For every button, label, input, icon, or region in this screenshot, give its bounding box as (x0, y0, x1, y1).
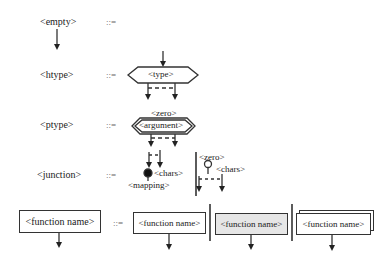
op-junction: ::= (106, 171, 116, 180)
junction-zero: <zero> (199, 153, 225, 162)
lhs-empty: <empty> (40, 17, 76, 27)
op-htype: ::= (106, 71, 116, 80)
function-box-stacked-front: <function name> (296, 213, 371, 235)
junction-chars-2: <chars> (216, 165, 245, 174)
junction-mapping: <mapping> (128, 181, 170, 190)
ptype-zero: <zero> (151, 109, 177, 118)
op-function-name: ::= (113, 219, 123, 228)
lhs-ptype: <ptype> (40, 120, 74, 130)
function-box-plain-label: <function name> (139, 218, 201, 228)
lhs-junction: <junction> (37, 170, 81, 180)
lhs-htype: <htype> (40, 70, 74, 80)
lhs-function-name-box: <function name> (19, 210, 101, 233)
op-ptype: ::= (106, 121, 116, 130)
function-box-plain: <function name> (133, 212, 206, 234)
filled-junction-node (144, 169, 152, 177)
function-box-shaded: <function name> (215, 213, 288, 235)
function-box-stacked-label: <function name> (303, 219, 365, 229)
htype-label: <type> (148, 70, 174, 79)
ptype-label: <argument> (139, 121, 183, 130)
lhs-function-name: <function name> (26, 216, 95, 227)
function-box-shaded-label: <function name> (221, 219, 283, 229)
junction-chars-1: <chars> (154, 169, 183, 178)
op-empty: ::= (106, 18, 116, 27)
